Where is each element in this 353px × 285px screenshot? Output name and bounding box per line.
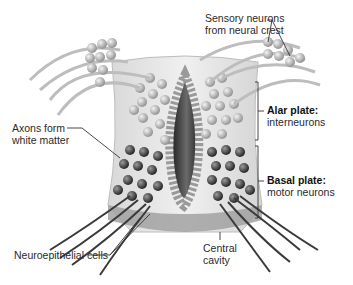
label-neuroepithelial-cells: Neuroepithelial cells: [14, 249, 108, 261]
label-sensory-neurons: Sensory neurons from neural crest: [205, 12, 284, 36]
label-axons-white-matter: Axons form white matter: [12, 122, 69, 146]
label-basal-plate: Basal plate: motor neurons: [267, 174, 335, 198]
label-central-cavity: Central cavity: [203, 242, 237, 266]
label-alar-plate: Alar plate: interneurons: [267, 104, 325, 128]
